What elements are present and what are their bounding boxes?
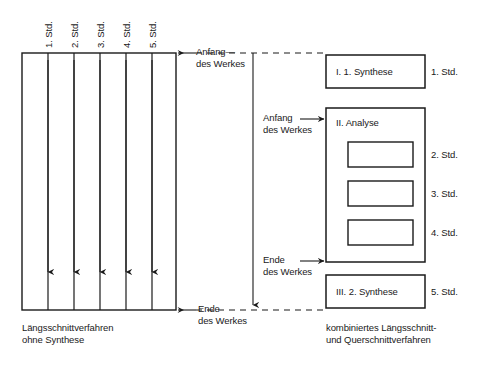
anfang-des-werkes-mid-line2: des Werkes [263, 124, 312, 136]
column-arrows [48, 60, 152, 272]
anfang-des-werkes-top-line1: Anfang— [196, 46, 235, 58]
analyse-inner-box-3 [348, 220, 413, 245]
analyse-inner-box-2 [348, 181, 413, 206]
ende-des-werkes-mid-line2: des Werkes [263, 266, 312, 278]
diagram-canvas [0, 0, 481, 365]
column-header-3: 3. Std. [95, 21, 107, 48]
column-header-5: 5. Std. [147, 21, 159, 48]
column-header-4: 4. Std. [121, 21, 133, 48]
left-caption-line1: Längsschnittverfahren [22, 322, 113, 334]
side-label-std-1: 1. Std. [431, 66, 458, 78]
ende-des-werkes-mid-line1: Ende [263, 254, 285, 266]
left-caption-line2: ohne Synthese [22, 334, 84, 346]
anfang-des-werkes-top-line2: des Werkes [196, 58, 245, 70]
laengsschnitt-outer-rect [22, 53, 176, 310]
right-caption-line2: und Querschnittverfahren [326, 334, 431, 346]
ende-des-werkes-bottom-line1: Ende [198, 303, 220, 315]
side-label-std-3: 3. Std. [431, 188, 458, 200]
side-label-std-2: 2. Std. [431, 149, 458, 161]
right-caption-line1: kombiniertes Längsschnitt- [326, 322, 436, 334]
ende-des-werkes-bottom-line2: des Werkes [198, 315, 247, 327]
side-label-std-5: 5. Std. [431, 286, 458, 298]
column-header-2: 2. Std. [69, 21, 81, 48]
laengsschnitt-box [22, 53, 176, 310]
analyse-box [326, 108, 425, 262]
analyse-inner-box-1 [348, 142, 413, 167]
column-header-1: 1. Std. [43, 21, 55, 48]
side-label-std-4: 4. Std. [431, 227, 458, 239]
anfang-des-werkes-mid-line1: Anfang [263, 112, 293, 124]
analyse-title: II. Analyse [336, 117, 379, 129]
synthese-2-title: III. 2. Synthese [336, 286, 398, 298]
synthese-1-title: I. 1. Synthese [336, 66, 393, 78]
